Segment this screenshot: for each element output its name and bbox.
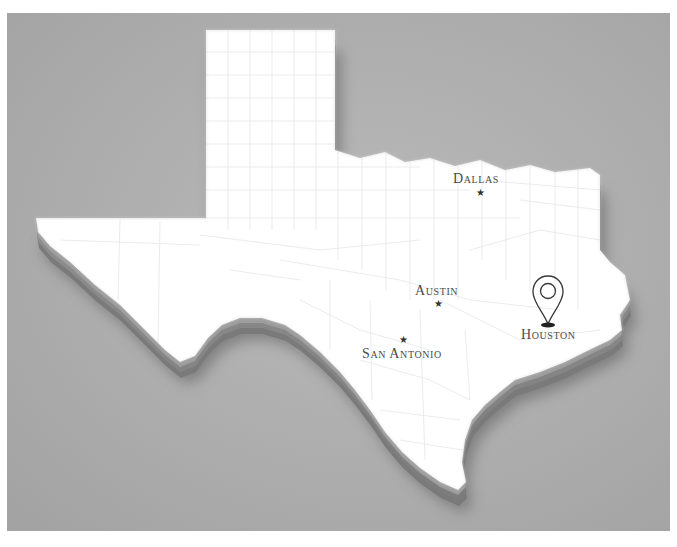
photo-frame: Dallas ★ Austin ★ ★ San Antonio Houston: [7, 13, 670, 531]
city-label-austin: Austin: [415, 283, 458, 299]
texas-map: [7, 13, 670, 531]
star-icon: ★: [399, 335, 408, 345]
city-label-houston: Houston: [521, 327, 576, 343]
city-label-dallas: Dallas: [453, 171, 499, 187]
star-icon: ★: [434, 299, 443, 309]
city-label-san-antonio: San Antonio: [362, 346, 442, 362]
texas-land: [36, 30, 630, 490]
star-icon: ★: [476, 188, 485, 198]
